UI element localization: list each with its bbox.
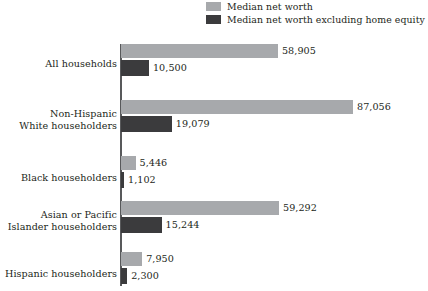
- category-label: Black householders: [0, 172, 117, 184]
- bar-chart: Median net worth Median net worth exclud…: [0, 0, 428, 291]
- bar-value-label: 2,300: [131, 271, 159, 281]
- chart-legend: Median net worth Median net worth exclud…: [206, 1, 425, 25]
- legend-label-median-net-worth: Median net worth: [227, 1, 313, 12]
- category-label: All households: [0, 58, 117, 70]
- bar-median-net-worth-excl-home-equity: 1,102: [121, 172, 156, 188]
- bar-rect: [121, 252, 142, 266]
- bar-median-net-worth: 7,950: [121, 252, 174, 266]
- bar-value-label: 1,102: [128, 175, 156, 185]
- legend-label-median-net-worth-excl-home-equity: Median net worth excluding home equity: [227, 14, 425, 25]
- category-label: Non-Hispanic White householders: [0, 108, 117, 131]
- bar-median-net-worth-excl-home-equity: 19,079: [121, 116, 210, 132]
- bar-median-net-worth: 58,905: [121, 44, 316, 58]
- bar-value-label: 5,446: [140, 158, 168, 168]
- legend-item-median-net-worth-excl-home-equity: Median net worth excluding home equity: [206, 14, 425, 25]
- bar-median-net-worth-excl-home-equity: 10,500: [121, 60, 187, 76]
- bar-rect: [121, 172, 124, 188]
- bar-rect: [121, 156, 136, 170]
- bar-value-label: 58,905: [282, 46, 316, 56]
- legend-swatch-median-net-worth: [206, 2, 221, 11]
- bar-median-net-worth-excl-home-equity: 2,300: [121, 268, 159, 284]
- bar-value-label: 19,079: [176, 119, 210, 129]
- bar-value-label: 15,244: [166, 220, 200, 230]
- bar-rect: [121, 201, 279, 215]
- bar-value-label: 10,500: [153, 63, 187, 73]
- bar-rect: [121, 268, 127, 284]
- bar-median-net-worth: 5,446: [121, 156, 167, 170]
- bar-rect: [121, 217, 162, 233]
- legend-swatch-median-net-worth-excl-home-equity: [206, 15, 221, 24]
- bar-rect: [121, 60, 149, 76]
- category-label: Asian or Pacific Islander householders: [0, 209, 117, 232]
- bar-rect: [121, 116, 172, 132]
- bar-median-net-worth: 87,056: [121, 100, 391, 114]
- bar-rect: [121, 44, 278, 58]
- bar-value-label: 7,950: [146, 254, 174, 264]
- plot-area: All households58,90510,500Non-Hispanic W…: [0, 44, 428, 286]
- bar-value-label: 59,292: [283, 203, 317, 213]
- bar-rect: [121, 100, 353, 114]
- bar-value-label: 87,056: [357, 102, 391, 112]
- legend-item-median-net-worth: Median net worth: [206, 1, 425, 12]
- bar-median-net-worth: 59,292: [121, 201, 317, 215]
- category-label: Hispanic householders: [0, 268, 117, 280]
- bar-median-net-worth-excl-home-equity: 15,244: [121, 217, 199, 233]
